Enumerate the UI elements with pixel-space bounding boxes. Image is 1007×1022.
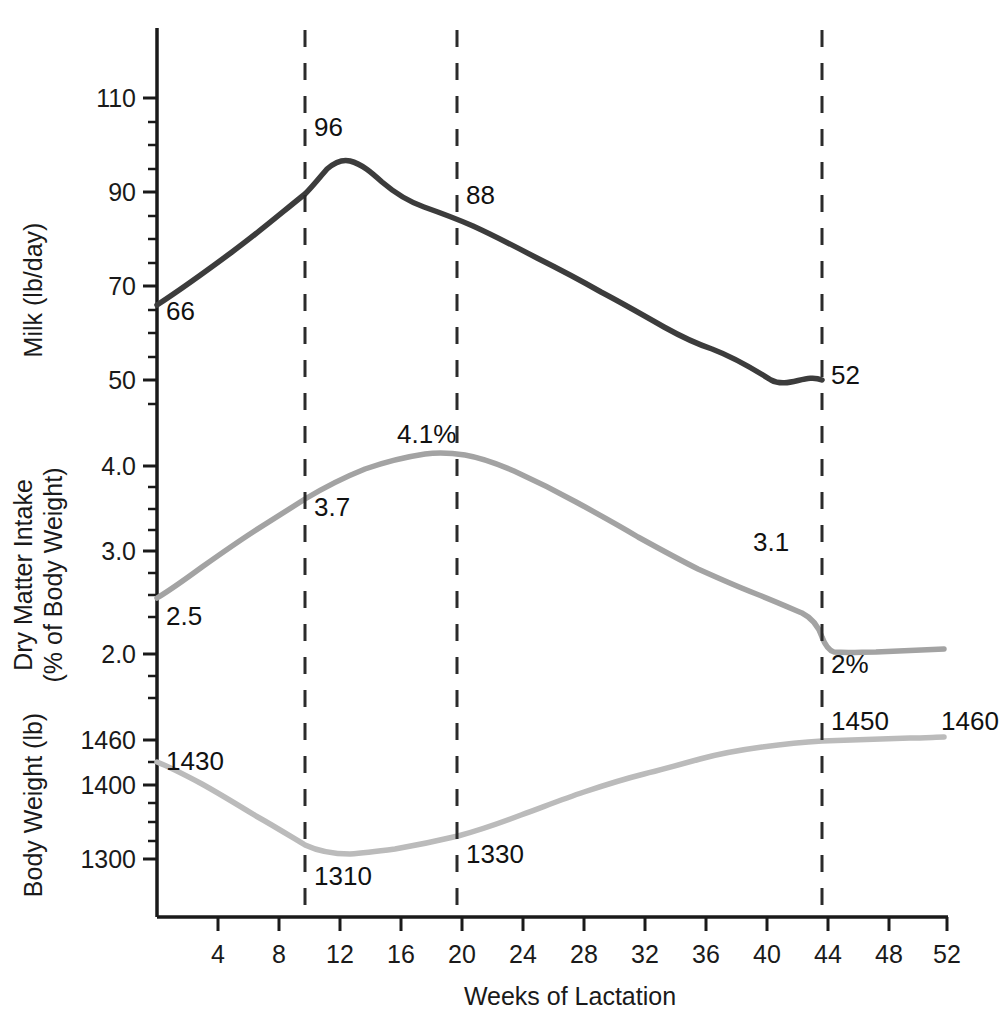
dmi-annotation-wk40: 3.1 xyxy=(753,527,789,557)
x-axis-ticks xyxy=(218,917,947,931)
bw-annotation-wk20: 1330 xyxy=(466,839,524,869)
bw-annotation-start: 1430 xyxy=(166,746,224,776)
milk-axis-title: Milk (lb/day) xyxy=(19,223,47,358)
xtick-label: 12 xyxy=(326,940,354,968)
bw-ytick-label: 1300 xyxy=(80,845,136,873)
bw-axis-title: Body Weight (lb) xyxy=(19,713,47,897)
dmi-annotation-peak: 4.1% xyxy=(397,419,456,449)
xtick-label: 36 xyxy=(692,940,720,968)
x-axis-title: Weeks of Lactation xyxy=(464,982,676,1010)
panel-dry-matter-intake: 4.0 3.0 2.0 Dry Matter Intake (% of Body… xyxy=(9,419,944,698)
body-weight-curve xyxy=(157,737,944,854)
axis-lines xyxy=(157,28,948,917)
xtick-label: 8 xyxy=(272,940,286,968)
dry-matter-intake-curve xyxy=(157,453,944,653)
reference-lines xyxy=(305,30,822,917)
bw-annotation-wk44: 1450 xyxy=(831,706,889,736)
milk-annotation-peak: 96 xyxy=(314,112,343,142)
milk-ytick-label: 90 xyxy=(108,178,136,206)
dmi-axis-title-line1: Dry Matter Intake xyxy=(9,479,37,671)
dmi-annotation-wk44: 2% xyxy=(831,649,869,679)
milk-annotation-start: 66 xyxy=(166,296,195,326)
xtick-label: 44 xyxy=(814,940,842,968)
panel-body-weight: 1460 1400 1300 Body Weight (lb) 1430 131… xyxy=(19,706,999,897)
x-axis-tick-labels: 4 8 12 16 20 24 28 32 36 40 44 48 52 xyxy=(211,940,961,968)
bw-ytick-label: 1400 xyxy=(80,771,136,799)
lactation-curves-figure: 110 90 70 50 Milk (lb/day) 66 96 88 52 xyxy=(0,0,1007,1022)
xtick-label: 4 xyxy=(211,940,225,968)
milk-ytick-label: 110 xyxy=(96,84,136,112)
xtick-label: 52 xyxy=(933,940,961,968)
dmi-ytick-label: 2.0 xyxy=(101,640,136,668)
bw-ytick-label: 1460 xyxy=(80,726,136,754)
xtick-label: 24 xyxy=(509,940,537,968)
dmi-ytick-label: 3.0 xyxy=(101,537,136,565)
milk-annotation-wk20: 88 xyxy=(466,180,495,210)
xtick-label: 48 xyxy=(875,940,903,968)
dmi-axis-title-line2: (% of Body Weight) xyxy=(39,468,67,683)
panel-milk: 110 90 70 50 Milk (lb/day) 66 96 88 52 xyxy=(19,84,860,404)
xtick-label: 40 xyxy=(753,940,781,968)
dmi-annotation-start: 2.5 xyxy=(166,601,202,631)
bw-annotation-end: 1460 xyxy=(941,706,999,736)
xtick-label: 20 xyxy=(448,940,476,968)
dmi-ytick-label: 4.0 xyxy=(101,452,136,480)
milk-ytick-label: 50 xyxy=(108,366,136,394)
milk-ytick-label: 70 xyxy=(108,272,136,300)
chart-canvas: 110 90 70 50 Milk (lb/day) 66 96 88 52 xyxy=(0,0,1007,1022)
xtick-label: 28 xyxy=(570,940,598,968)
xtick-label: 32 xyxy=(631,940,659,968)
xtick-label: 16 xyxy=(387,940,415,968)
milk-annotation-wk44: 52 xyxy=(831,360,860,390)
dmi-y-major-ticks xyxy=(143,466,157,654)
dmi-annotation-wk10: 3.7 xyxy=(314,492,350,522)
bw-annotation-nadir: 1310 xyxy=(314,861,372,891)
